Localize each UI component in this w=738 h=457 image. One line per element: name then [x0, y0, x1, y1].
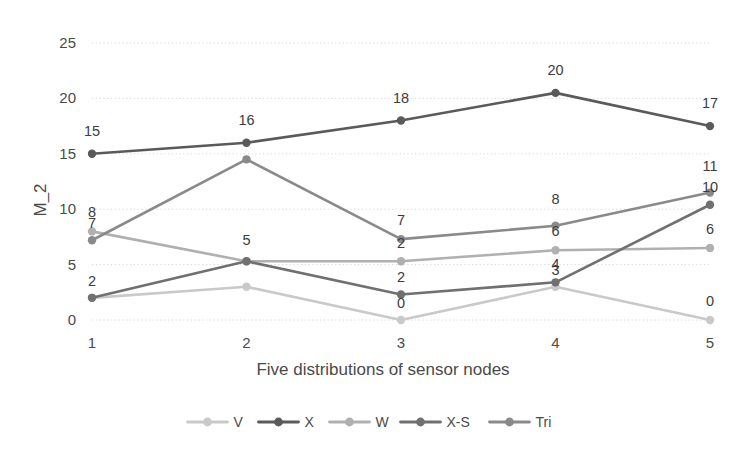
data-point — [551, 278, 559, 286]
data-point — [706, 244, 714, 252]
chart-background — [0, 0, 738, 457]
legend-marker-icon — [203, 418, 212, 427]
y-tick-label: 20 — [59, 89, 76, 106]
data-label: 4 — [551, 256, 559, 272]
x-tick-label: 5 — [706, 334, 714, 351]
data-point — [551, 89, 559, 97]
data-point — [242, 257, 250, 265]
legend-label: V — [234, 414, 244, 430]
data-point — [88, 150, 96, 158]
data-label: 16 — [238, 112, 254, 128]
data-label: 10 — [702, 179, 718, 195]
data-point — [706, 201, 714, 209]
y-axis-title: M_2 — [31, 183, 50, 216]
data-label: 2 — [397, 269, 405, 285]
x-tick-label: 1 — [88, 334, 96, 351]
y-tick-label: 25 — [59, 34, 76, 51]
data-point — [397, 257, 405, 265]
data-point — [88, 294, 96, 302]
data-label: 2 — [397, 235, 405, 251]
data-point — [397, 116, 405, 124]
y-tick-label: 0 — [68, 311, 76, 328]
data-label: 0 — [706, 293, 714, 309]
data-label: 11 — [702, 158, 717, 174]
legend-label: X — [305, 414, 315, 430]
y-tick-label: 10 — [59, 200, 76, 217]
data-label: 17 — [702, 95, 718, 111]
data-point — [242, 155, 250, 163]
data-label: 0 — [397, 295, 405, 311]
y-tick-label: 15 — [59, 145, 76, 162]
x-tick-label: 2 — [242, 334, 250, 351]
data-label: 2 — [88, 273, 96, 289]
legend-marker-icon — [274, 418, 283, 427]
legend-marker-icon — [505, 418, 514, 427]
data-label: 15 — [84, 123, 100, 139]
data-point — [551, 246, 559, 254]
data-label: 8 — [551, 191, 559, 207]
data-point — [242, 283, 250, 291]
data-label: 18 — [393, 90, 409, 106]
x-tick-label: 3 — [397, 334, 405, 351]
data-label: 7 — [397, 212, 405, 228]
legend-label: Tri — [536, 414, 552, 430]
legend-marker-icon — [416, 418, 425, 427]
x-axis-title: Five distributions of sensor nodes — [256, 360, 509, 379]
data-point — [706, 122, 714, 130]
data-label: 7 — [88, 215, 96, 231]
data-point — [88, 236, 96, 244]
y-tick-label: 5 — [68, 256, 76, 273]
legend-marker-icon — [345, 418, 354, 427]
legend-label: W — [376, 414, 390, 430]
data-label: 20 — [547, 62, 563, 78]
data-point — [397, 316, 405, 324]
chart-container: 2030151618201785266241077811 0510152025 … — [0, 0, 738, 457]
data-point — [706, 316, 714, 324]
line-chart: 2030151618201785266241077811 0510152025 … — [0, 0, 738, 457]
data-point — [242, 139, 250, 147]
data-label: 6 — [706, 221, 714, 237]
data-label: 5 — [242, 232, 250, 248]
x-tick-label: 4 — [551, 334, 559, 351]
data-label: 6 — [551, 223, 559, 239]
legend-label: X-S — [447, 414, 470, 430]
